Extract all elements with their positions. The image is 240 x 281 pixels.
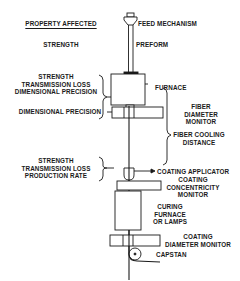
furnace-box [111, 74, 145, 105]
label-line: FURNACE [150, 211, 190, 219]
label-capstan: CAPSTAN [156, 251, 187, 259]
coating-diameter-monitor-plate [110, 235, 160, 246]
property-line: STRENGTH [12, 73, 100, 81]
property-line: STRENGTH [12, 157, 100, 165]
label-line: COATING [162, 176, 224, 184]
label-line: MONITOR [178, 118, 224, 126]
label-line: OR LAMPS [150, 218, 190, 226]
preform-rod [124, 25, 138, 74]
property-line: PRODUCTION RATE [12, 172, 100, 180]
label-line: DIAMETER [178, 111, 224, 119]
property-group-furnace: STRENGTH TRANSMISSION LOSS DIMENSIONAL P… [12, 73, 100, 96]
label-furnace: FURNACE [155, 84, 186, 92]
bracket-coating-properties [99, 157, 107, 181]
property-line: DIMENSIONAL PRECISION [12, 88, 100, 96]
label-line: CONCENTRICITY [162, 184, 224, 192]
label-feed-mechanism: FEED MECHANISM [138, 20, 197, 28]
property-line: STRENGTH [22, 41, 100, 49]
property-group-preform: STRENGTH [22, 41, 100, 49]
label-line: FIBER COOLING [170, 131, 228, 139]
label-line: FIBER [178, 103, 224, 111]
label-fiber-cooling-distance: FIBER COOLING DISTANCE [170, 131, 228, 146]
label-line: DISTANCE [170, 139, 228, 147]
label-line: MONITOR [162, 191, 224, 199]
property-affected-header: PROPERTY AFFECTED [22, 20, 100, 28]
property-line: DIMENSIONAL PRECISION [12, 108, 108, 116]
property-line: TRANSMISSION LOSS [12, 81, 100, 89]
label-coating-applicator: COATING APPLICATOR [157, 168, 229, 176]
property-group-coating: STRENGTH TRANSMISSION LOSS PRODUCTION RA… [12, 157, 100, 180]
bracket-fiber-cooling [163, 88, 171, 165]
label-curing-furnace: CURING FURNACE OR LAMPS [150, 203, 190, 226]
curing-furnace-box [115, 191, 141, 230]
label-line: DIAMETER MONITOR [163, 241, 233, 249]
label-coating-concentricity-monitor: COATING CONCENTRICITY MONITOR [162, 176, 224, 199]
property-group-fiber-diameter: DIMENSIONAL PRECISION [12, 108, 108, 116]
label-preform: PREFORM [136, 41, 168, 49]
label-line: CURING [150, 203, 190, 211]
coating-concentricity-plate [117, 181, 161, 190]
feed-mechanism-icon [124, 13, 137, 25]
label-fiber-diameter-monitor: FIBER DIAMETER MONITOR [178, 103, 224, 126]
property-line: TRANSMISSION LOSS [12, 165, 100, 173]
fiber-diameter-monitor-plate [112, 107, 163, 118]
label-coating-diameter-monitor: COATING DIAMETER MONITOR [163, 233, 233, 248]
label-line: COATING [163, 233, 233, 241]
